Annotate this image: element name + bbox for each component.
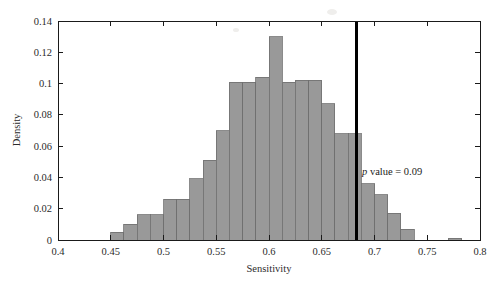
y-tick-label: 0.08 (34, 109, 52, 120)
histogram-bar (203, 160, 216, 240)
y-tick-label: 0.14 (34, 16, 53, 27)
y-tick-label: 0.04 (34, 172, 53, 183)
histogram-bar (388, 213, 401, 240)
histogram-chart: 0.40.450.50.550.60.650.70.750.8 00.020.0… (0, 0, 504, 286)
histogram-bar (335, 134, 348, 240)
histogram-bar (111, 232, 124, 240)
x-tick-label: 0.65 (313, 246, 331, 257)
x-tick-label: 0.5 (157, 246, 170, 257)
histogram-bar (348, 134, 361, 240)
y-tick-label: 0 (47, 235, 52, 246)
histogram-bar (137, 215, 150, 240)
histogram-bar (295, 80, 308, 240)
p-value-text: value = 0.09 (367, 166, 422, 177)
histogram-bar (124, 224, 137, 240)
histogram-bar (269, 37, 282, 240)
histogram-bars (111, 37, 462, 240)
histogram-bar (361, 184, 374, 240)
x-tick-label: 0.6 (262, 246, 275, 257)
histogram-bar (256, 77, 269, 240)
figure-container: 0.40.450.50.550.60.650.70.750.8 00.020.0… (0, 0, 504, 286)
histogram-bar (164, 199, 177, 240)
histogram-bar (375, 195, 388, 240)
x-tick-label: 0.55 (207, 246, 225, 257)
histogram-bar (177, 199, 190, 240)
y-axis-title: Density (11, 113, 22, 146)
x-tick-label: 0.75 (418, 246, 436, 257)
histogram-bar (401, 229, 414, 240)
y-tick-label: 0.06 (34, 141, 52, 152)
x-axis-title: Sensitivity (247, 263, 293, 274)
p-value-annotation: p value = 0.09 (361, 166, 422, 177)
histogram-bar (309, 80, 322, 240)
histogram-bar (190, 179, 203, 240)
histogram-bar (282, 82, 295, 240)
scan-speck (233, 28, 239, 32)
histogram-bar (243, 82, 256, 240)
y-tick-label: 0.12 (34, 47, 52, 58)
histogram-bar (322, 104, 335, 240)
y-tick-label: 0.02 (34, 203, 52, 214)
x-tick-label: 0.8 (473, 246, 486, 257)
histogram-bar (150, 215, 163, 240)
x-tick-label: 0.45 (102, 246, 120, 257)
y-tick-label: 0.1 (39, 78, 52, 89)
scan-speck (327, 9, 337, 15)
x-tick-label: 0.4 (51, 246, 65, 257)
histogram-bar (216, 131, 229, 241)
histogram-bar (229, 82, 242, 240)
x-tick-label: 0.7 (368, 246, 381, 257)
